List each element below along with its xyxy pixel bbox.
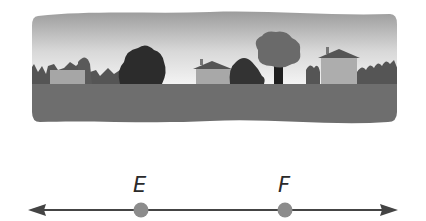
- label-E: E: [133, 173, 146, 197]
- point-F: [278, 203, 293, 218]
- house-middle: [196, 69, 231, 84]
- line-EF: [28, 203, 398, 218]
- arrow-left-icon: [28, 204, 46, 216]
- tree-trunk: [274, 66, 283, 84]
- ground: [30, 84, 400, 124]
- scene-panel: [30, 10, 400, 124]
- label-F: F: [278, 173, 290, 197]
- house-right: [321, 58, 357, 84]
- arrow-right-icon: [380, 204, 398, 216]
- chimney-middle: [200, 59, 203, 65]
- point-E: [134, 203, 149, 218]
- shrub-right-small: [306, 65, 320, 84]
- street-scene-illustration: [0, 0, 426, 221]
- house-left: [50, 70, 85, 84]
- chimney-right: [326, 47, 329, 54]
